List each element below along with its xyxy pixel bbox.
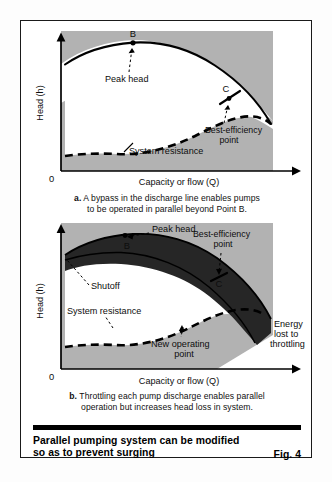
- system-resistance-label-a: System resistance: [129, 146, 203, 156]
- peak-head-label-b: Peak head: [152, 224, 195, 234]
- x-axis-arrow-b: [292, 365, 301, 374]
- title-rule: [33, 425, 301, 430]
- caption-b-line2: operation but increases head loss in sys…: [81, 402, 253, 412]
- best-efficiency-label-line2-b: point: [213, 239, 233, 249]
- panel-b: Peak head B Shutoff System resistance Be…: [21, 219, 313, 419]
- panel-a: B Peak head C Best-efficiency point Syst…: [21, 25, 313, 215]
- shutoff-label-b: Shutoff: [91, 281, 120, 291]
- caption-a: a. A bypass in the discharge line enable…: [21, 193, 313, 214]
- title-row: Parallel pumping system can be modified …: [33, 435, 301, 460]
- caption-a-line1: A bypass in the discharge line enables p…: [83, 193, 260, 203]
- origin-label-b: 0: [49, 371, 54, 382]
- figure-title-line1: Parallel pumping system can be modified: [33, 435, 241, 448]
- caption-a-line2: to be operated in parallel beyond Point …: [87, 204, 247, 214]
- energy-lost-label-line2-b: lost to: [274, 329, 298, 339]
- caption-b: b. Throttling each pump discharge enable…: [21, 391, 313, 412]
- chart-b: Peak head B Shutoff System resistance Be…: [21, 219, 313, 389]
- caption-b-marker: b.: [69, 391, 77, 401]
- chart-a: B Peak head C Best-efficiency point Syst…: [21, 25, 313, 191]
- caption-b-line1: Throttling each pump discharge enables p…: [79, 391, 264, 401]
- point-c-label-b: C: [216, 278, 223, 289]
- figure-number: Fig. 4: [274, 449, 301, 460]
- new-operating-label-line2-b: point: [174, 349, 194, 359]
- new-operating-label-line1-b: New operating: [151, 339, 210, 349]
- peak-head-label-a: Peak head: [105, 74, 148, 84]
- x-axis-label-a: Capacity or flow (Q): [139, 177, 219, 187]
- energy-lost-label-line3-b: throttling: [270, 339, 305, 349]
- point-c-label-a: C: [223, 83, 230, 94]
- best-efficiency-label-line1-b: Best-efficiency: [193, 229, 251, 239]
- origin-label-a: 0: [49, 173, 54, 184]
- y-axis-label-b: Head (h): [35, 283, 45, 318]
- best-efficiency-label-line2-a: point: [219, 135, 239, 145]
- figure-frame: B Peak head C Best-efficiency point Syst…: [20, 20, 312, 458]
- x-axis-label-b: Capacity or flow (Q): [139, 376, 219, 386]
- energy-lost-label-line1-b: Energy: [274, 319, 303, 329]
- point-b-marker-b: [123, 233, 128, 238]
- figure-title-line2: so as to prevent surging: [33, 447, 241, 460]
- best-efficiency-label-line1-a: Best-efficiency: [205, 125, 263, 135]
- point-b-label-a: B: [130, 28, 136, 39]
- caption-a-marker: a.: [74, 193, 81, 203]
- y-axis-label-a: Head (h): [35, 85, 45, 120]
- system-resistance-label-b: System resistance: [67, 306, 141, 316]
- x-axis-arrow-a: [292, 167, 301, 176]
- figure-page: B Peak head C Best-efficiency point Syst…: [0, 0, 332, 482]
- figure-title: Parallel pumping system can be modified …: [33, 435, 241, 460]
- figure-title-block: Parallel pumping system can be modified …: [33, 425, 301, 460]
- point-b-marker-a: [130, 40, 135, 45]
- point-b-label-b: B: [124, 240, 130, 251]
